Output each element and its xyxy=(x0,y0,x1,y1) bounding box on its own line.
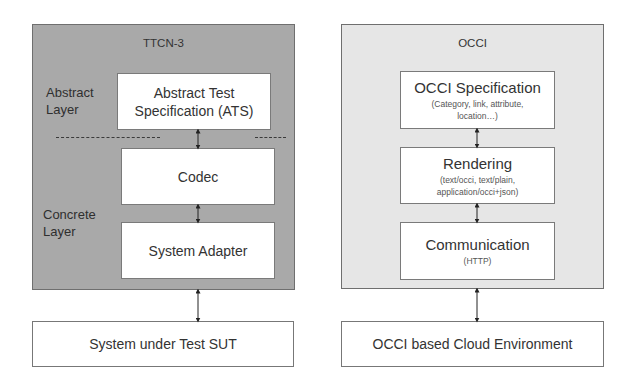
connector-arrows xyxy=(0,0,629,387)
